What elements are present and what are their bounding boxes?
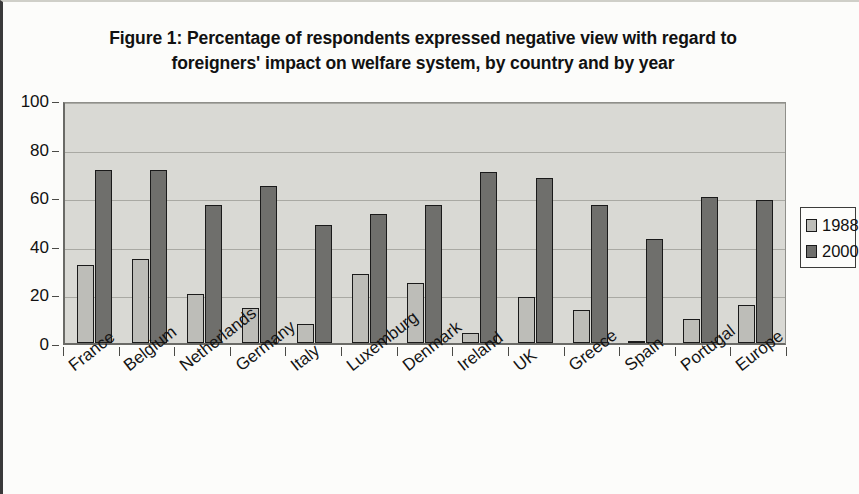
bar-greece-1988[interactable] bbox=[573, 310, 590, 343]
chart-title: Figure 1: Percentage of respondents expr… bbox=[63, 26, 783, 76]
bar-group-luxemburg bbox=[352, 103, 387, 343]
legend: 1988 2000 bbox=[800, 207, 856, 268]
bar-group-ireland bbox=[462, 103, 497, 343]
plot-area bbox=[63, 102, 786, 345]
x-axis-labels: FranceBelgiumNetherlandsGermanyItalyLuxe… bbox=[3, 354, 859, 494]
bar-greece-2000[interactable] bbox=[591, 205, 608, 344]
y-tick-label-40: 40 bbox=[30, 238, 49, 258]
bar-uk-1988[interactable] bbox=[518, 297, 535, 343]
y-tick-mark-100 bbox=[52, 102, 59, 103]
bar-belgium-2000[interactable] bbox=[150, 170, 167, 343]
bar-luxemburg-2000[interactable] bbox=[370, 214, 387, 343]
bar-group-portugal bbox=[683, 103, 718, 343]
bar-group-greece bbox=[573, 103, 608, 343]
figure-frame: Figure 1: Percentage of respondents expr… bbox=[0, 0, 859, 494]
bar-france-1988[interactable] bbox=[77, 265, 94, 343]
y-tick-mark-60 bbox=[52, 199, 59, 200]
y-tick-mark-20 bbox=[52, 296, 59, 297]
bar-france-2000[interactable] bbox=[95, 170, 112, 343]
bar-portugal-2000[interactable] bbox=[701, 197, 718, 343]
y-tick-label-100: 100 bbox=[21, 92, 49, 112]
chart-title-line-1: Figure 1: Percentage of respondents expr… bbox=[63, 26, 783, 51]
bar-denmark-2000[interactable] bbox=[425, 205, 442, 344]
bar-uk-2000[interactable] bbox=[536, 178, 553, 343]
bar-groups bbox=[65, 103, 785, 343]
bar-germany-2000[interactable] bbox=[260, 186, 277, 343]
legend-swatch-1988-icon bbox=[806, 219, 817, 232]
legend-label-2000: 2000 bbox=[822, 242, 859, 261]
y-tick-mark-0 bbox=[52, 345, 59, 346]
bar-group-uk bbox=[518, 103, 553, 343]
bar-netherlands-1988[interactable] bbox=[187, 294, 204, 343]
legend-item-2000[interactable]: 2000 bbox=[806, 242, 851, 261]
bar-group-spain bbox=[628, 103, 663, 343]
bar-spain-2000[interactable] bbox=[646, 239, 663, 343]
y-axis: 020406080100 bbox=[3, 94, 59, 356]
bar-europe-1988[interactable] bbox=[738, 305, 755, 343]
bar-group-italy bbox=[297, 103, 332, 343]
bar-portugal-1988[interactable] bbox=[683, 319, 700, 343]
chart-title-line-2: foreigners' impact on welfare system, by… bbox=[63, 51, 783, 76]
bar-group-france bbox=[77, 103, 112, 343]
legend-item-1988[interactable]: 1988 bbox=[806, 216, 851, 235]
y-tick-label-20: 20 bbox=[30, 286, 49, 306]
y-tick-label-0: 0 bbox=[40, 335, 49, 355]
bar-belgium-1988[interactable] bbox=[132, 259, 149, 343]
bar-ireland-2000[interactable] bbox=[480, 172, 497, 343]
bar-group-belgium bbox=[132, 103, 167, 343]
bar-group-denmark bbox=[407, 103, 442, 343]
bar-luxemburg-1988[interactable] bbox=[352, 274, 369, 343]
bar-europe-2000[interactable] bbox=[756, 200, 773, 343]
y-tick-mark-40 bbox=[52, 248, 59, 249]
legend-label-1988: 1988 bbox=[822, 216, 859, 235]
legend-swatch-2000-icon bbox=[806, 245, 817, 258]
bar-italy-2000[interactable] bbox=[315, 225, 332, 343]
y-tick-label-80: 80 bbox=[30, 141, 49, 161]
bar-group-netherlands bbox=[187, 103, 222, 343]
y-tick-label-60: 60 bbox=[30, 189, 49, 209]
bar-group-europe bbox=[738, 103, 773, 343]
y-tick-mark-80 bbox=[52, 151, 59, 152]
bar-netherlands-2000[interactable] bbox=[205, 205, 222, 344]
